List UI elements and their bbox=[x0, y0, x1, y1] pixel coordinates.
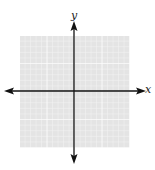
grid bbox=[20, 36, 130, 148]
x-axis-label: x bbox=[145, 84, 151, 95]
coordinate-plane bbox=[0, 0, 155, 170]
y-axis-label: y bbox=[71, 10, 77, 21]
